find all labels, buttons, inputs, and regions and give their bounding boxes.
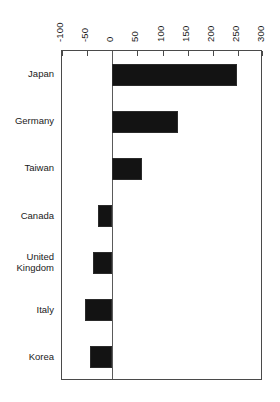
x-tick-mark (262, 51, 263, 56)
x-tick-mark (213, 51, 214, 56)
x-tick-label: 0 (105, 37, 115, 42)
bar (112, 64, 237, 86)
x-tick-label: 250 (231, 26, 241, 42)
bar (112, 158, 142, 180)
bar (90, 346, 113, 368)
category-label-united-kingdom: United Kingdom (17, 251, 55, 273)
x-axis-tick-labels: -100 -50 0 50 100 150 200 250 300 (0, 0, 280, 44)
plot-area (61, 50, 262, 380)
x-tick-mark (62, 51, 63, 56)
x-tick-mark (137, 51, 138, 56)
bar (98, 205, 112, 227)
bar (93, 252, 112, 274)
x-tick-label: 150 (181, 26, 191, 42)
x-tick-mark (163, 51, 164, 56)
x-tick-mark (87, 51, 88, 56)
bar (85, 299, 112, 321)
x-tick-label: 100 (156, 26, 166, 42)
category-label-italy: Italy (37, 304, 54, 315)
x-tick-label: -50 (80, 28, 90, 42)
x-tick-label: -100 (55, 22, 65, 42)
x-tick-label: 50 (130, 31, 140, 42)
bar-chart: -100 -50 0 50 100 150 200 250 300 Japan … (0, 0, 280, 402)
category-label-canada: Canada (21, 210, 54, 221)
x-tick-label: 300 (256, 26, 266, 42)
category-label-korea: Korea (29, 351, 54, 362)
x-tick-label: 200 (206, 26, 216, 42)
category-label-japan: Japan (28, 68, 54, 79)
bar (112, 111, 177, 133)
zero-reference-line (112, 51, 113, 379)
x-tick-mark (188, 51, 189, 56)
category-label-taiwan: Taiwan (24, 162, 54, 173)
category-label-germany: Germany (15, 115, 54, 126)
y-axis-category-labels: Japan Germany Taiwan Canada United Kingd… (0, 50, 58, 380)
x-tick-mark (238, 51, 239, 56)
